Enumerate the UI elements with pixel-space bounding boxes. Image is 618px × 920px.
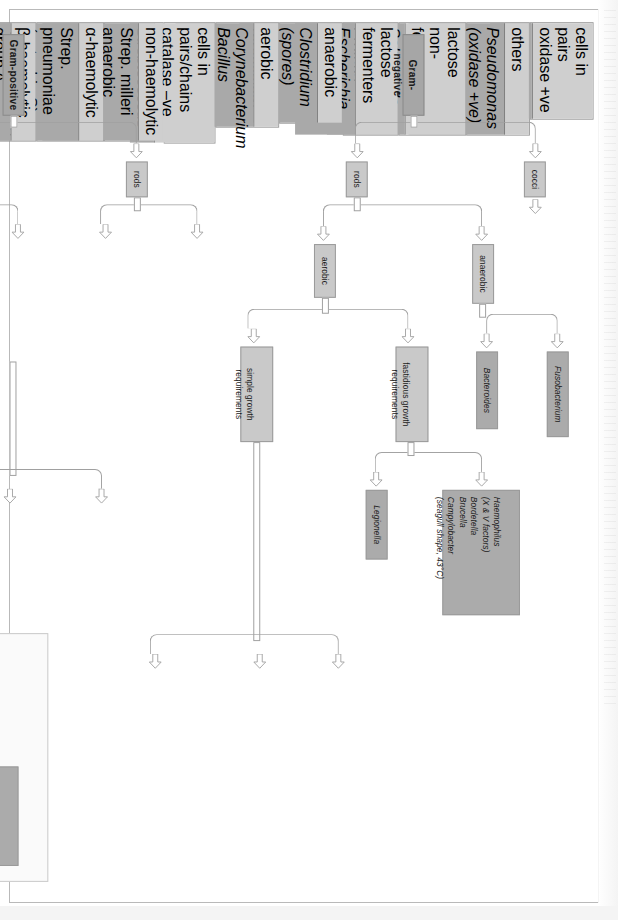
gp-aerobic-rods-box: aerobic Corynebacterium Bacillus (spores… — [215, 22, 279, 127]
gn-cocci-test: cells in pairs oxidase +ve — [532, 23, 593, 119]
arrow-to-gp-anaerobic-rods — [191, 224, 204, 239]
flowchart-canvas: Gram-negative cocci cells in pairs oxida… — [24, 22, 593, 898]
arrow-to-non-haemolytic — [95, 489, 108, 504]
gp-aerobic-rods-test: aerobic — [253, 23, 278, 126]
haemophilus-group-box: Haemophilus (X & V factors) Bordetella B… — [442, 490, 520, 615]
simple-growth-trunk — [253, 442, 260, 641]
non-haemolytic-test: non-haemolytic — [138, 23, 163, 140]
poor-stain-organisms-box: Mycobacterium (acid fast) Treponema Lept… — [0, 766, 18, 866]
fastidious-label: fastidious growth requirements — [390, 362, 411, 426]
arrow-to-bacteroides — [480, 334, 493, 349]
simple-growth-vertical-bus — [150, 634, 339, 654]
arrow-to-alpha-haemolytic — [4, 489, 17, 504]
gp-anaerobic-rods-box: anaerobic Clostridium (spores) Actinomyc… — [279, 22, 343, 123]
arrow-to-gp-rods — [130, 144, 143, 159]
streptococcus-test: cells in pairs/chains catalase –ve — [154, 23, 215, 142]
gn-rods-split — [323, 204, 482, 226]
arrow-to-simple-growth — [247, 329, 260, 344]
gn-anaerobic-box: anaerobic — [472, 244, 494, 304]
gn-anaerobic-split — [486, 314, 558, 334]
arrow-to-lactose-fermenters — [149, 654, 162, 669]
others-test: others — [504, 23, 529, 134]
arrow-to-fusobacterium — [551, 334, 564, 349]
gn-cocci-label: cocci — [530, 170, 540, 189]
gram-negative-header: Gram-negative — [403, 34, 425, 116]
arrow-to-legionella — [370, 472, 383, 487]
gn-cocci-box: cocci — [524, 162, 546, 198]
gp-rods-box: rods — [126, 162, 148, 198]
streptococcus-box: cells in pairs/chains catalase –ve Strep… — [164, 22, 216, 143]
simple-growth-box: simple growth requirements — [240, 347, 273, 443]
gp-header-stem — [10, 116, 17, 128]
legionella-label: Legionella — [372, 505, 382, 544]
gn-rods-box: rods — [346, 162, 368, 198]
scan-bottom-shading — [0, 906, 618, 920]
gn-header-stem — [410, 116, 417, 128]
gn-aerobic-label: aerobic — [320, 257, 330, 285]
streptococcus-bus — [0, 469, 102, 489]
fastidious-stem — [408, 442, 415, 456]
arrow-to-others — [332, 654, 345, 669]
gn-cocci-result-box: cells in pairs oxidase +ve Neisseria Mor… — [530, 22, 594, 120]
gp-split-left — [0, 122, 137, 144]
arrow-to-fastidious — [402, 329, 415, 344]
arrow-to-streptococcus — [11, 224, 24, 239]
bacteroides-label: Bacteroides — [482, 368, 492, 413]
gn-anaerobic-bacteroides: Bacteroides — [476, 352, 498, 430]
gn-rods-stem — [354, 197, 361, 211]
simple-growth-label: simple growth requirements — [234, 368, 255, 421]
haemophilus-group-label: Haemophilus (X & V factors) Bordetella B… — [435, 497, 502, 579]
arrow-to-gn-rods — [351, 144, 364, 159]
fusobacterium-label: Fusobacterium — [553, 366, 563, 422]
gram-positive-header-label: Gram-positive — [8, 40, 19, 111]
gn-rods-label: rods — [352, 171, 362, 188]
arrow-to-gp-aerobic-rods — [99, 224, 112, 239]
gn-split-left — [355, 122, 536, 144]
fastidious-box: fastidious growth requirements — [396, 347, 429, 443]
gn-anaerobic-label: anaerobic — [478, 255, 488, 292]
scan-margin-noise — [604, 10, 616, 710]
gram-negative-header-label: Gram-negative — [392, 54, 419, 97]
gn-anaerobic-stem — [479, 304, 486, 318]
gp-rods-stem — [134, 197, 141, 211]
arrow-to-gn-anaerobic — [475, 226, 488, 241]
page-frame: Gram-negative cocci cells in pairs oxida… — [0, 0, 618, 920]
gp-cocci-split — [0, 204, 18, 224]
gp-rods-split — [100, 204, 198, 224]
gn-aerobic-box: aerobic — [314, 244, 336, 298]
gp-anaerobic-rods-test: anaerobic — [317, 23, 342, 123]
streptococcus-trunk — [10, 361, 17, 475]
arrow-to-neisseria — [529, 199, 542, 214]
arrow-to-lactose-nonfermenters — [253, 654, 266, 669]
legionella-box: Legionella — [366, 490, 388, 560]
gn-anaerobic-fusobacterium: Fusobacterium — [547, 352, 569, 438]
gram-positive-header: Gram-positive — [3, 34, 25, 116]
gn-aerobic-stem — [322, 298, 329, 314]
arrow-to-gn-cocci — [529, 144, 542, 159]
arrow-to-haemophilus-group — [475, 472, 488, 487]
others-box: others Pseudomonas (oxidase +ve) Vibrio … — [466, 22, 530, 135]
arrow-to-gn-aerobic — [317, 226, 330, 241]
fastidious-split — [375, 452, 482, 472]
gp-rods-label: rods — [132, 171, 142, 188]
